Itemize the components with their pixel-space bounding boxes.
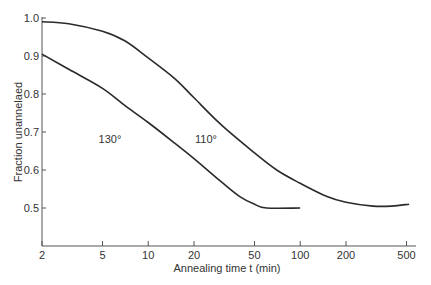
y-tick-label: 0.8 bbox=[24, 88, 39, 100]
y-tick-label: 0.5 bbox=[24, 202, 39, 214]
x-tick-label: 20 bbox=[188, 249, 200, 261]
curve-130deg bbox=[42, 54, 300, 208]
y-tick-label: 1.0 bbox=[24, 12, 39, 24]
axes: 0.50.60.70.80.91.025102050100200500 bbox=[24, 12, 416, 261]
series-label: 130° bbox=[99, 133, 122, 145]
curve-110deg bbox=[42, 22, 409, 207]
x-tick-label: 50 bbox=[248, 249, 260, 261]
x-tick-label: 500 bbox=[397, 249, 415, 261]
x-tick-label: 5 bbox=[99, 249, 105, 261]
curves bbox=[42, 22, 409, 208]
y-tick-label: 0.9 bbox=[24, 50, 39, 62]
labels: 110°130° bbox=[99, 133, 217, 145]
y-tick-label: 0.7 bbox=[24, 126, 39, 138]
series-label: 110° bbox=[195, 133, 217, 145]
chart: 0.50.60.70.80.91.025102050100200500 110°… bbox=[0, 0, 431, 285]
x-tick-label: 100 bbox=[291, 249, 309, 261]
y-axis-label: Fraction unannelaed bbox=[12, 82, 24, 182]
x-tick-label: 200 bbox=[337, 249, 355, 261]
x-axis-label: Annealing time t (min) bbox=[174, 262, 281, 274]
x-tick-label: 10 bbox=[142, 249, 154, 261]
x-tick-label: 2 bbox=[39, 249, 45, 261]
y-tick-label: 0.6 bbox=[24, 164, 39, 176]
